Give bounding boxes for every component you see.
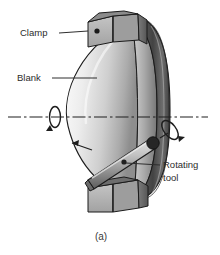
tool-shaft-marker-icon	[121, 159, 126, 164]
label-rotating-tool-line1: Rotating	[163, 159, 198, 170]
clamp-bolt-icon	[94, 28, 99, 33]
figure-container: Clamp Blank Rotating tool (a)	[0, 0, 220, 255]
figure-caption: (a)	[95, 231, 107, 242]
blank-rotation-arrow	[46, 107, 61, 132]
tool-tip-icon	[147, 137, 159, 149]
label-rotating-tool-line2: tool	[163, 172, 178, 183]
label-clamp: Clamp	[20, 27, 47, 38]
label-blank: Blank	[17, 72, 41, 83]
blank-dome	[66, 22, 137, 196]
spinning-process-diagram: Clamp Blank Rotating tool (a)	[0, 0, 220, 255]
clamp-leader-line	[59, 31, 88, 33]
